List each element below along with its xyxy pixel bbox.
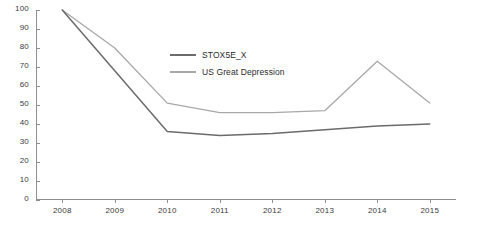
legend-label-us-great-depression: US Great Depression [202, 67, 285, 77]
legend-item-stox5e-x: STOX5E_X [170, 48, 285, 62]
line-chart: 0102030405060708090100 20082009201020112… [0, 0, 482, 232]
legend-label-stox5e-x: STOX5E_X [202, 50, 247, 60]
chart-legend: STOX5E_X US Great Depression [170, 48, 285, 82]
legend-item-us-great-depression: US Great Depression [170, 65, 285, 79]
series-lines [0, 0, 482, 232]
legend-swatch-us-great-depression [170, 71, 196, 73]
legend-swatch-stox5e-x [170, 54, 196, 56]
